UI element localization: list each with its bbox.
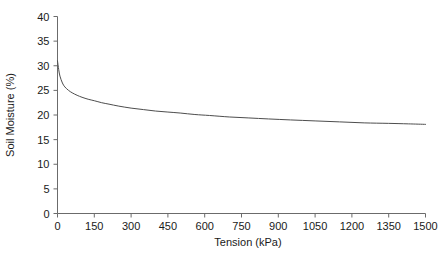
x-axis-title: Tension (kPa)	[214, 236, 281, 248]
y-axis-tick-labels: 0510152025303540	[37, 11, 49, 220]
y-axis	[54, 17, 58, 214]
x-axis-tick-label: 600	[196, 220, 214, 232]
y-axis-tick-label: 0	[43, 208, 49, 220]
chart-container: 0510152025303540 01503004506007509001050…	[0, 0, 448, 258]
x-axis-tick-label: 900	[269, 220, 287, 232]
y-axis-tick-label: 5	[43, 183, 49, 195]
y-axis-tick-label: 35	[37, 35, 49, 47]
y-axis-tick-label: 10	[37, 158, 49, 170]
data-series-line	[58, 61, 426, 125]
soil-moisture-retention-chart: 0510152025303540 01503004506007509001050…	[0, 0, 448, 258]
y-axis-tick-label: 25	[37, 84, 49, 96]
x-axis	[58, 214, 426, 218]
y-axis-tick-label: 40	[37, 11, 49, 23]
x-axis-tick-label: 1350	[376, 220, 400, 232]
x-axis-tick-label: 750	[232, 220, 250, 232]
x-axis-tick-label: 450	[159, 220, 177, 232]
y-axis-tick-label: 15	[37, 134, 49, 146]
y-axis-tick-label: 30	[37, 60, 49, 72]
x-axis-tick-label: 150	[85, 220, 103, 232]
x-axis-tick-label: 1050	[303, 220, 327, 232]
x-axis-tick-label: 1200	[340, 220, 364, 232]
x-axis-tick-labels: 01503004506007509001050120013501500	[54, 220, 437, 232]
x-axis-tick-label: 300	[122, 220, 140, 232]
y-axis-tick-label: 20	[37, 109, 49, 121]
x-axis-tick-label: 0	[54, 220, 60, 232]
y-axis-title: Soil Moisture (%)	[4, 73, 16, 157]
x-axis-tick-label: 1500	[413, 220, 437, 232]
